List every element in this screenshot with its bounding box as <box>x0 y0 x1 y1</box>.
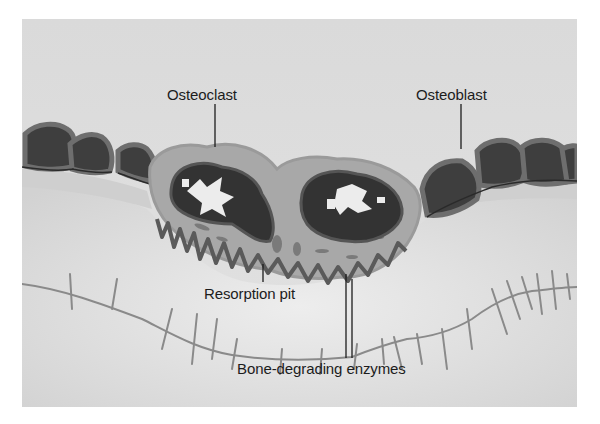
label-osteoclast: Osteoclast <box>167 86 237 103</box>
diagram-frame <box>22 19 577 407</box>
label-osteoblast: Osteoblast <box>416 86 487 103</box>
label-resorption-pit: Resorption pit <box>204 285 295 302</box>
bone-remodeling-illustration <box>22 19 577 407</box>
label-bone-degrading-enzymes: Bone-degrading enzymes <box>237 360 406 377</box>
